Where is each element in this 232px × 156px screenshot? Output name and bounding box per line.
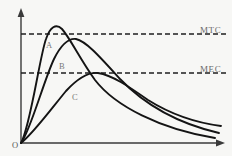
curve-a-label: A [46,41,52,50]
mec-label: MEC [200,65,221,74]
concentration-time-curve-figure: MTC MEC A B C O [0,0,232,156]
mtc-label: MTC [200,26,221,35]
curve-c-label: C [72,93,78,102]
y-axis-arrow [18,8,25,17]
curve-b-label: B [59,62,65,71]
origin-label: O [12,141,18,150]
curve-b [21,39,219,143]
plot-area [0,0,232,156]
x-axis-arrow [216,140,225,147]
